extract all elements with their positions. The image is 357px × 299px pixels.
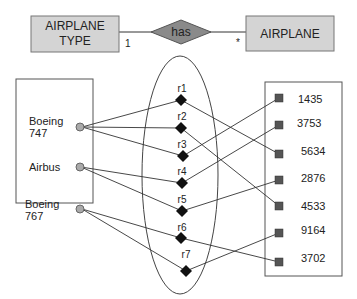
type-label-boeing-747-1: Boeing <box>29 115 63 127</box>
type-relation-links <box>81 100 186 271</box>
type-label-boeing-767-1: Boeing <box>25 198 59 210</box>
airplane-label-5634: 5634 <box>301 145 325 157</box>
entity-airplane-type-label1: AIRPLANE <box>45 19 104 33</box>
airplane-label-9164: 9164 <box>301 224 325 236</box>
airplane-label-3753: 3753 <box>297 117 321 129</box>
entity-airplane-label: AIRPLANE <box>260 27 319 41</box>
relation-label-r6: r6 <box>178 222 187 233</box>
relation-label-r4: r4 <box>178 166 187 177</box>
relation-label-r1: r1 <box>178 83 187 94</box>
type-dot-airbus <box>76 163 84 171</box>
entity-airplane-type-label2: TYPE <box>59 34 90 48</box>
airplane-squares <box>275 94 283 266</box>
airplane-label-3702: 3702 <box>301 252 325 264</box>
relation-airplane-links <box>181 98 279 271</box>
type-dot-boeing-747 <box>76 123 84 131</box>
airplane-label-1435: 1435 <box>298 93 322 105</box>
type-label-airbus: Airbus <box>29 161 61 173</box>
cardinality-one: 1 <box>125 38 131 49</box>
airplane-label-2876: 2876 <box>301 172 325 184</box>
type-label-boeing-747-2: 747 <box>29 127 47 139</box>
airplane-type-set <box>16 79 93 203</box>
relation-label-r3: r3 <box>178 139 187 150</box>
relation-label-r2: r2 <box>178 111 187 122</box>
airplane-label-4533: 4533 <box>301 200 325 212</box>
cardinality-many: * <box>236 37 240 48</box>
er-instance-diagram: AIRPLANE TYPE has AIRPLANE 1 * Boeing 74… <box>0 0 357 299</box>
relationship-label: has <box>171 25 190 39</box>
type-label-boeing-767-2: 767 <box>25 210 43 222</box>
relation-label-r7: r7 <box>182 249 191 260</box>
type-dot-boeing-767 <box>76 205 84 213</box>
relation-label-r5: r5 <box>178 194 187 205</box>
